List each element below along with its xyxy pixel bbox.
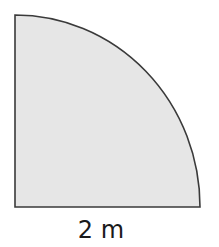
radius-label: 2 m — [8, 216, 194, 244]
quarter-circle-shape — [15, 15, 200, 207]
quarter-circle-figure — [0, 0, 219, 247]
